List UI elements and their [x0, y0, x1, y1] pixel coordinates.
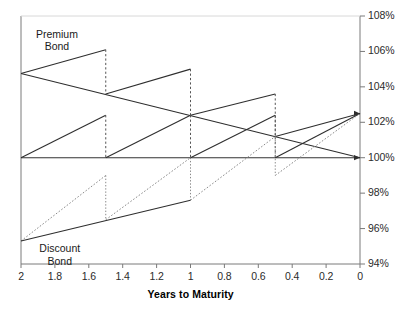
y-axis-tick-label: 98% — [368, 186, 389, 198]
y-axis-tick-label: 106% — [368, 44, 394, 56]
series-segment — [21, 115, 106, 158]
y-axis-tick-label: 108% — [368, 9, 394, 21]
y-axis-tick-label: 104% — [368, 80, 394, 92]
series-segment — [21, 200, 191, 241]
series-segment — [106, 115, 191, 158]
y-axis-tick-label: 100% — [368, 151, 394, 163]
series-segment — [275, 113, 360, 136]
series-segment — [106, 69, 191, 94]
x-axis-title: Years to Maturity — [148, 288, 234, 300]
series-segment — [191, 94, 276, 115]
series-segment — [191, 136, 276, 200]
x-axis-tick-label: 0 — [340, 270, 380, 282]
y-axis-tick-label: 102% — [368, 115, 394, 127]
convergence-marker — [354, 155, 360, 160]
bond-price-convergence-chart: 94%96%98%100%102%104%106%108%21.81.61.41… — [0, 0, 415, 313]
series-segment — [21, 50, 106, 74]
series-segment — [275, 113, 360, 157]
y-axis-tick-label: 94% — [368, 257, 389, 269]
y-axis-tick-label: 96% — [368, 222, 389, 234]
discount-bond-label: Discount Bond — [39, 242, 80, 267]
series-segment — [275, 113, 360, 175]
series-segment — [191, 115, 276, 158]
premium-bond-label: Premium Bond — [36, 28, 78, 53]
